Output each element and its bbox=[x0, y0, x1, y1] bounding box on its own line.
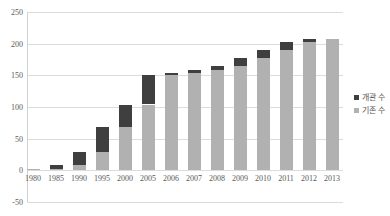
y-axis-tick-label: 50 bbox=[0, 135, 23, 144]
y-axis-tick-label: 200 bbox=[0, 40, 23, 49]
gridline bbox=[27, 44, 343, 45]
chart-container: 250200150100500-501980198519901995200020… bbox=[0, 0, 390, 216]
y-axis-tick-label: 100 bbox=[0, 103, 23, 112]
legend-item: 개관 수 bbox=[354, 93, 385, 102]
legend-swatch bbox=[354, 108, 359, 113]
gridline bbox=[27, 75, 343, 76]
x-axis-tick-label: 1980 bbox=[22, 174, 45, 183]
bar-segment bbox=[234, 58, 247, 66]
bar-segment bbox=[188, 73, 201, 171]
bar-segment bbox=[73, 165, 86, 170]
y-axis-tick-label: 250 bbox=[0, 8, 23, 17]
x-axis-tick-label: 2013 bbox=[321, 174, 344, 183]
x-axis-tick-label: 2009 bbox=[229, 174, 252, 183]
x-axis-tick-label: 2011 bbox=[275, 174, 298, 183]
gridline bbox=[27, 202, 343, 203]
bar-segment bbox=[280, 42, 293, 50]
bar-segment bbox=[303, 42, 316, 170]
gridline bbox=[27, 12, 343, 13]
legend-swatch bbox=[354, 95, 359, 100]
bar-segment bbox=[257, 50, 270, 58]
bar-segment bbox=[303, 39, 316, 42]
bar-segment bbox=[257, 58, 270, 171]
gridline bbox=[27, 139, 343, 140]
legend: 개관 수기존 수 bbox=[354, 93, 385, 119]
legend-item: 기존 수 bbox=[354, 106, 385, 115]
bar-segment bbox=[280, 50, 293, 170]
bar-segment bbox=[119, 127, 132, 170]
bar-segment bbox=[73, 152, 86, 165]
x-axis-tick-label: 1995 bbox=[91, 174, 114, 183]
x-axis-tick-label: 2005 bbox=[137, 174, 160, 183]
bar-segment bbox=[142, 75, 155, 105]
x-axis-tick-label: 1990 bbox=[68, 174, 91, 183]
bar-segment bbox=[326, 39, 339, 170]
bar-segment bbox=[234, 66, 247, 171]
bar-segment bbox=[142, 105, 155, 171]
x-axis-tick-label: 2000 bbox=[114, 174, 137, 183]
legend-label: 기존 수 bbox=[362, 106, 385, 115]
x-axis-tick-label: 2012 bbox=[298, 174, 321, 183]
bar-segment bbox=[211, 70, 224, 170]
y-axis-tick-label: -50 bbox=[0, 198, 23, 207]
x-axis-tick-label: 2006 bbox=[160, 174, 183, 183]
y-axis-tick-label: 150 bbox=[0, 71, 23, 80]
bar-segment bbox=[27, 169, 40, 170]
x-axis-tick-label: 1985 bbox=[45, 174, 68, 183]
bar-segment bbox=[50, 165, 63, 169]
bar-segment bbox=[211, 66, 224, 70]
gridline bbox=[27, 107, 343, 108]
bar-segment bbox=[188, 70, 201, 73]
x-axis-tick-label: 2010 bbox=[252, 174, 275, 183]
bar-segment bbox=[96, 127, 109, 152]
bar-segment bbox=[50, 169, 63, 170]
bar-segment bbox=[165, 73, 178, 75]
bar-segment bbox=[119, 105, 132, 128]
legend-label: 개관 수 bbox=[362, 93, 385, 102]
bar-segment bbox=[96, 152, 109, 170]
bar-segment bbox=[165, 75, 178, 171]
y-axis-tick-label: 0 bbox=[0, 166, 23, 175]
x-axis-tick-label: 2008 bbox=[206, 174, 229, 183]
x-axis-tick-label: 2007 bbox=[183, 174, 206, 183]
